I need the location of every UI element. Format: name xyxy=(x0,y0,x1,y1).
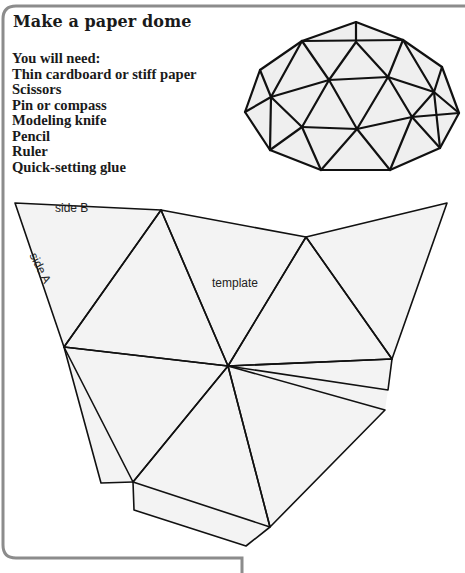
template-label: template xyxy=(212,276,258,290)
side-b-label: side B xyxy=(55,201,88,215)
